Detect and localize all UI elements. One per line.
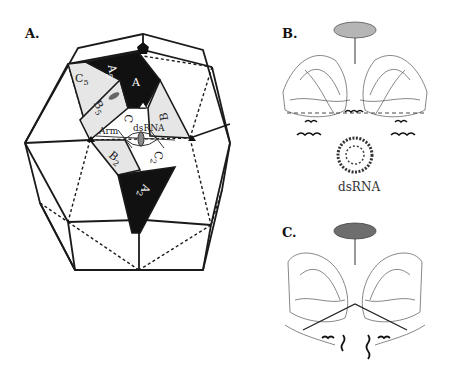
protein-ribbons-c [285, 253, 425, 345]
axis-marker-oval-c [334, 223, 376, 239]
helices-c [322, 335, 390, 359]
panel-c-structure [0, 0, 457, 371]
